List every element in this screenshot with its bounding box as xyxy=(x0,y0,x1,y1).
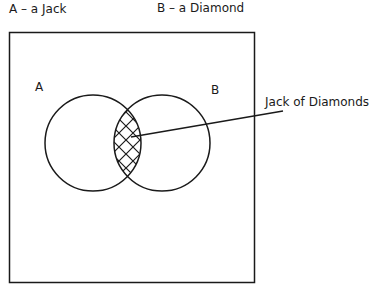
set-b-label: B xyxy=(211,83,219,97)
leader-line xyxy=(131,111,283,137)
set-a-label: A xyxy=(35,80,43,94)
intersection-label: Jack of Diamonds xyxy=(265,95,369,109)
venn-diagram xyxy=(0,0,377,290)
